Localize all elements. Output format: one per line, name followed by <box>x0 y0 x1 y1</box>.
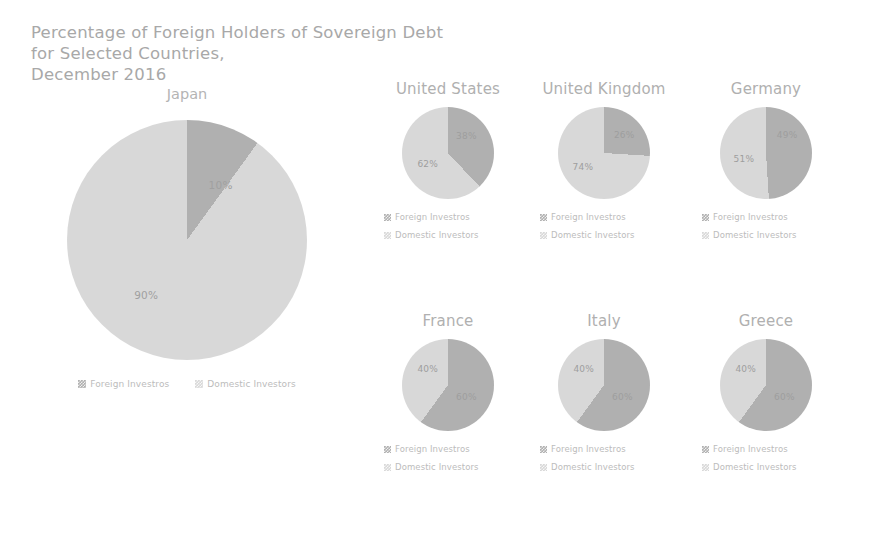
legend-united-kingdom: Foreign Investros Domestic Investors <box>528 209 680 243</box>
legend-item-domestic: Domestic Investors <box>195 376 295 392</box>
legend-swatch-foreign-icon <box>540 446 547 453</box>
legend-label-domestic: Domestic Investors <box>395 227 479 243</box>
pie-chart-united-kingdom: 26%74% <box>558 107 650 199</box>
legend-swatch-domestic-icon <box>195 380 203 388</box>
page-title: Percentage of Foreign Holders of Soverei… <box>31 22 451 85</box>
pie-title-united-states: United States <box>372 80 524 98</box>
pie-slice-label-fr-domestic: 40% <box>417 364 438 374</box>
legend-united-states: Foreign Investros Domestic Investors <box>372 209 524 243</box>
page-title-line-1: Percentage of Foreign Holders of Soverei… <box>31 22 451 43</box>
pie-slice-label-de-domestic: 51% <box>734 154 755 164</box>
pie-slice-label-it-foreign: 60% <box>612 392 633 402</box>
legend-swatch-domestic-icon <box>702 232 709 239</box>
legend-item-domestic: Domestic Investors <box>384 459 524 475</box>
legend-item-domestic: Domestic Investors <box>540 459 680 475</box>
legend-germany: Foreign Investros Domestic Investors <box>690 209 842 243</box>
pie-slice-label-us-foreign: 38% <box>456 131 477 141</box>
legend-label-foreign: Foreign Investros <box>551 441 626 457</box>
legend-label-foreign: Foreign Investros <box>395 441 470 457</box>
pie-slice-label-gr-foreign: 60% <box>774 392 795 402</box>
pie-slice-label-japan-foreign: 10% <box>209 179 233 191</box>
page-title-line-2: for Selected Countries, <box>31 43 451 64</box>
legend-item-foreign: Foreign Investros <box>78 376 169 392</box>
pie-panel-greece: Greece 60%40% Foreign Investros Domestic… <box>690 312 842 477</box>
pie-title-japan: Japan <box>12 86 362 102</box>
legend-item-domestic: Domestic Investors <box>702 459 842 475</box>
pie-slice-label-fr-foreign: 60% <box>456 392 477 402</box>
legend-swatch-foreign-icon <box>540 214 547 221</box>
legend-label-domestic: Domestic Investors <box>551 459 635 475</box>
pie-panel-united-states: United States 38%62% Foreign Investros D… <box>372 80 524 245</box>
pie-chart-japan: 10%90% <box>67 120 307 360</box>
legend-swatch-domestic-icon <box>540 232 547 239</box>
legend-item-foreign: Foreign Investros <box>702 441 842 457</box>
legend-swatch-domestic-icon <box>384 464 391 471</box>
pie-slice-label-uk-foreign: 26% <box>614 130 635 140</box>
pie-panel-italy: Italy 60%40% Foreign Investros Domestic … <box>528 312 680 477</box>
legend-swatch-foreign-icon <box>78 380 86 388</box>
legend-item-foreign: Foreign Investros <box>540 441 680 457</box>
legend-italy: Foreign Investros Domestic Investors <box>528 441 680 475</box>
legend-swatch-foreign-icon <box>384 214 391 221</box>
pie-title-france: France <box>372 312 524 330</box>
legend-label-domestic: Domestic Investors <box>395 459 479 475</box>
legend-swatch-domestic-icon <box>702 464 709 471</box>
legend-item-domestic: Domestic Investors <box>540 227 680 243</box>
legend-swatch-foreign-icon <box>702 446 709 453</box>
legend-swatch-foreign-icon <box>384 446 391 453</box>
pie-title-italy: Italy <box>528 312 680 330</box>
pie-panel-japan: Japan 10%90% Foreign Investros Domestic … <box>12 86 362 392</box>
legend-japan: Foreign Investros Domestic Investors <box>12 376 362 392</box>
pie-chart-united-states: 38%62% <box>402 107 494 199</box>
legend-item-domestic: Domestic Investors <box>702 227 842 243</box>
legend-label-foreign: Foreign Investros <box>713 209 788 225</box>
pie-chart-italy: 60%40% <box>558 339 650 431</box>
pie-slice-label-us-domestic: 62% <box>417 159 438 169</box>
legend-swatch-domestic-icon <box>540 464 547 471</box>
pie-slice-label-gr-domestic: 40% <box>735 364 756 374</box>
pie-title-greece: Greece <box>690 312 842 330</box>
pie-chart-greece: 60%40% <box>720 339 812 431</box>
legend-label-foreign: Foreign Investros <box>90 376 169 392</box>
legend-label-foreign: Foreign Investros <box>713 441 788 457</box>
legend-label-domestic: Domestic Investors <box>207 376 295 392</box>
pie-chart-germany: 49%51% <box>720 107 812 199</box>
pie-panel-germany: Germany 49%51% Foreign Investros Domesti… <box>690 80 842 245</box>
pie-title-united-kingdom: United Kingdom <box>528 80 680 98</box>
legend-label-domestic: Domestic Investors <box>551 227 635 243</box>
legend-greece: Foreign Investros Domestic Investors <box>690 441 842 475</box>
pie-panel-united-kingdom: United Kingdom 26%74% Foreign Investros … <box>528 80 680 245</box>
legend-item-foreign: Foreign Investros <box>540 209 680 225</box>
legend-france: Foreign Investros Domestic Investors <box>372 441 524 475</box>
pie-slice-label-japan-domestic: 90% <box>134 289 158 301</box>
pie-slice-label-uk-domestic: 74% <box>573 162 594 172</box>
legend-swatch-domestic-icon <box>384 232 391 239</box>
legend-swatch-foreign-icon <box>702 214 709 221</box>
pie-slice-label-de-foreign: 49% <box>777 130 798 140</box>
legend-item-foreign: Foreign Investros <box>702 209 842 225</box>
pie-title-germany: Germany <box>690 80 842 98</box>
legend-label-domestic: Domestic Investors <box>713 459 797 475</box>
pie-chart-france: 60%40% <box>402 339 494 431</box>
legend-label-domestic: Domestic Investors <box>713 227 797 243</box>
legend-label-foreign: Foreign Investros <box>551 209 626 225</box>
pie-slice-label-it-domestic: 40% <box>573 364 594 374</box>
legend-label-foreign: Foreign Investros <box>395 209 470 225</box>
pie-panel-france: France 60%40% Foreign Investros Domestic… <box>372 312 524 477</box>
legend-item-foreign: Foreign Investros <box>384 441 524 457</box>
legend-item-foreign: Foreign Investros <box>384 209 524 225</box>
legend-item-domestic: Domestic Investors <box>384 227 524 243</box>
